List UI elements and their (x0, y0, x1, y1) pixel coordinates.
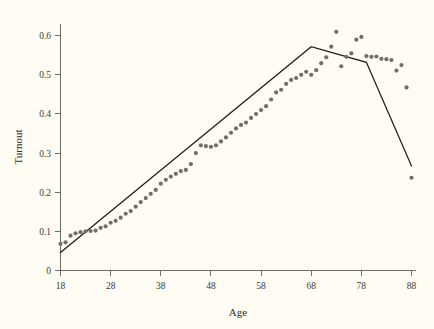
x-tick-label: 38 (156, 281, 166, 291)
x-tick-label: 78 (357, 281, 367, 291)
y-tick-label: 0.4 (39, 109, 51, 119)
data-point (304, 70, 308, 74)
data-point (339, 64, 343, 68)
y-tick-label: 0.2 (39, 188, 51, 198)
data-point (279, 88, 283, 92)
data-point (314, 68, 318, 72)
data-point (409, 176, 413, 180)
data-point (73, 231, 77, 235)
data-point (179, 169, 183, 173)
data-point (124, 212, 128, 216)
chart-figure: 00.10.20.30.40.50.6 1828384858687888 Age… (0, 0, 434, 329)
data-point (58, 242, 62, 246)
x-tick-label: 88 (407, 281, 417, 291)
data-point (129, 209, 133, 213)
data-point (149, 192, 153, 196)
data-point (284, 82, 288, 86)
y-tick-label: 0.1 (39, 227, 51, 237)
data-point (234, 126, 238, 130)
data-point (394, 68, 398, 72)
data-point (99, 226, 103, 230)
data-point (159, 182, 163, 186)
x-tick-label: 18 (56, 281, 66, 291)
y-axis-ticks: 00.10.20.30.40.50.6 (39, 31, 60, 276)
data-point (174, 172, 178, 176)
y-axis-title: Turnout (12, 129, 24, 164)
data-point (389, 58, 393, 62)
data-point (259, 108, 263, 112)
data-point (68, 234, 72, 238)
data-point (299, 73, 303, 77)
data-point-group (58, 30, 413, 246)
data-point (164, 178, 168, 182)
data-point (329, 45, 333, 49)
data-point (344, 55, 348, 59)
data-point (254, 112, 258, 116)
data-point (154, 188, 158, 192)
y-tick-label: 0.6 (39, 31, 51, 41)
data-point (359, 35, 363, 39)
data-point (324, 55, 328, 59)
data-point (134, 205, 138, 209)
data-point (244, 121, 248, 125)
data-point (289, 78, 293, 82)
data-point (63, 240, 67, 244)
data-point (364, 54, 368, 58)
data-point (139, 200, 143, 204)
data-point (214, 143, 218, 147)
data-point (204, 144, 208, 148)
data-point (294, 76, 298, 80)
data-point (219, 139, 223, 143)
data-point (224, 135, 228, 139)
data-point (119, 216, 123, 220)
y-tick-label: 0 (46, 266, 51, 276)
x-tick-label: 28 (106, 281, 116, 291)
data-point (189, 162, 193, 166)
data-point (384, 57, 388, 61)
data-point (239, 123, 243, 127)
x-tick-label: 48 (206, 281, 216, 291)
data-point (104, 224, 108, 228)
data-point (169, 175, 173, 179)
data-point (94, 228, 98, 232)
x-tick-label: 58 (256, 281, 266, 291)
data-point (78, 230, 82, 234)
scatter-plot: 00.10.20.30.40.50.6 1828384858687888 Age… (0, 0, 434, 329)
regression-fit-line (61, 47, 412, 253)
data-point (349, 51, 353, 55)
data-point (404, 85, 408, 89)
data-point (319, 61, 323, 65)
data-point (144, 196, 148, 200)
y-tick-label: 0.3 (39, 149, 51, 159)
data-point (184, 168, 188, 172)
data-point (199, 143, 203, 147)
data-point (274, 90, 278, 94)
data-point (354, 38, 358, 42)
data-point (229, 131, 233, 135)
fit-line-group (61, 47, 412, 253)
x-tick-label: 68 (306, 281, 316, 291)
y-tick-label: 0.5 (39, 70, 51, 80)
data-point (269, 97, 273, 101)
data-point (109, 221, 113, 225)
data-point (374, 54, 378, 58)
data-point (264, 104, 268, 108)
data-point (309, 73, 313, 77)
data-point (399, 63, 403, 67)
data-point (114, 219, 118, 223)
x-axis-title: Age (229, 306, 247, 318)
data-point (334, 30, 338, 34)
data-point (369, 55, 373, 59)
x-axis-ticks: 1828384858687888 (56, 271, 417, 292)
data-point (249, 116, 253, 120)
data-point (194, 151, 198, 155)
data-point (83, 229, 87, 233)
data-point (209, 145, 213, 149)
data-point (88, 229, 92, 233)
data-point (379, 57, 383, 61)
